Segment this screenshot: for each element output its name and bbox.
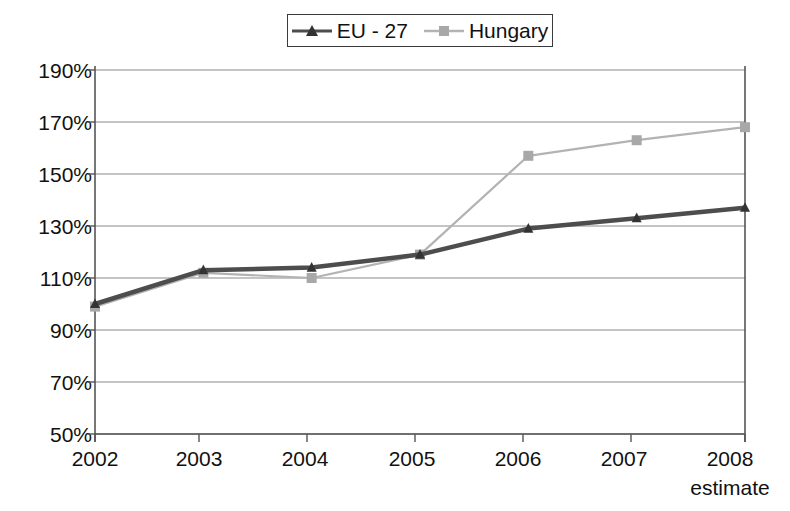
chart-container: EU - 27 Hungary 190% 170% 150% 130% 110%… — [0, 0, 790, 511]
data-point-marker[interactable]: Hungary 2006: 157% — [523, 151, 533, 161]
data-series-layer: Hungary 2002: 99%Hungary 2003: 112%Hunga… — [90, 122, 750, 311]
data-point-marker[interactable]: Hungary 2004: 110% — [307, 273, 317, 283]
plot-area: Hungary 2002: 99%Hungary 2003: 112%Hunga… — [0, 0, 790, 511]
data-point-marker[interactable]: Hungary 2007: 163% — [632, 135, 642, 145]
data-point-marker[interactable]: Hungary 2008: 168% — [740, 122, 750, 132]
